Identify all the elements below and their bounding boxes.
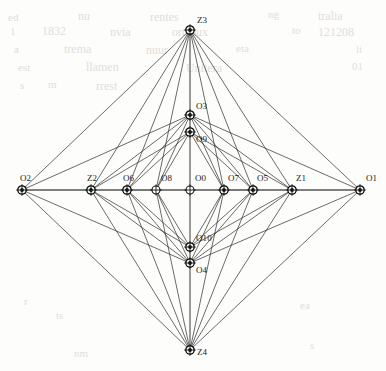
- node-core-icon: [188, 348, 192, 352]
- node-core-icon: [222, 188, 226, 192]
- node-core-icon: [188, 28, 192, 32]
- node-core-icon: [188, 245, 192, 249]
- graph-edge-O10-O8: [156, 190, 190, 247]
- node-label-Z3: Z3: [197, 16, 207, 25]
- graph-edge-O10-Z2: [91, 190, 190, 247]
- graph-edge-O3-O1: [190, 115, 360, 190]
- graph-node-O8[interactable]: [150, 184, 161, 195]
- node-label-O6: O6: [123, 174, 134, 183]
- graph-edge-Z4-O6: [127, 190, 190, 350]
- graph-node-Z2[interactable]: [85, 184, 97, 196]
- node-label-O1: O1: [366, 174, 377, 183]
- node-label-O4: O4: [196, 266, 207, 275]
- graph-edge-O10-O6: [127, 190, 190, 247]
- node-label-O8: O8: [161, 174, 172, 183]
- graph-edge-O4-O7: [190, 190, 224, 263]
- graph-edge-Z3-O8: [156, 30, 190, 190]
- node-label-O0: O0: [195, 174, 206, 183]
- graph-figure: ednurentesngtralia11832nviaorteauxto1212…: [0, 0, 386, 371]
- graph-edge-O9-O6: [127, 132, 190, 190]
- node-core-icon: [290, 188, 294, 192]
- graph-edge-Z3-O6: [127, 30, 190, 190]
- graph-edge-Z4-O8: [156, 190, 190, 350]
- node-label-O5: O5: [257, 174, 268, 183]
- node-core-icon: [89, 188, 93, 192]
- node-label-Z1: Z1: [296, 174, 306, 183]
- node-label-O3: O3: [196, 102, 207, 111]
- node-core-icon: [358, 188, 362, 192]
- node-label-O9: O9: [196, 135, 207, 144]
- graph-node-Z1[interactable]: [286, 184, 298, 196]
- graph-node-O0[interactable]: [184, 184, 195, 195]
- graph-node-O7[interactable]: [218, 184, 230, 196]
- node-label-O7: O7: [228, 174, 239, 183]
- node-label-O10: O10: [196, 234, 212, 243]
- graph-edge-O4-O8: [156, 190, 190, 263]
- graph-edge-O4-O1: [190, 190, 360, 263]
- graph-edge-Z3-O1: [190, 30, 360, 190]
- node-core-icon: [188, 130, 192, 134]
- node-core-icon: [125, 188, 129, 192]
- graph-edge-Z4-O1: [190, 190, 360, 350]
- node-label-O2: O2: [20, 174, 31, 183]
- graph-edge-O9-Z2: [91, 132, 190, 190]
- node-core-icon: [188, 261, 192, 265]
- graph-node-O4[interactable]: [184, 257, 196, 269]
- node-core-icon: [251, 188, 255, 192]
- node-label-Z2: Z2: [87, 174, 97, 183]
- graph-node-O3[interactable]: [184, 109, 196, 121]
- node-core-icon: [188, 113, 192, 117]
- graph-canvas: [0, 0, 386, 371]
- node-label-Z4: Z4: [197, 348, 207, 357]
- node-core-icon: [20, 188, 24, 192]
